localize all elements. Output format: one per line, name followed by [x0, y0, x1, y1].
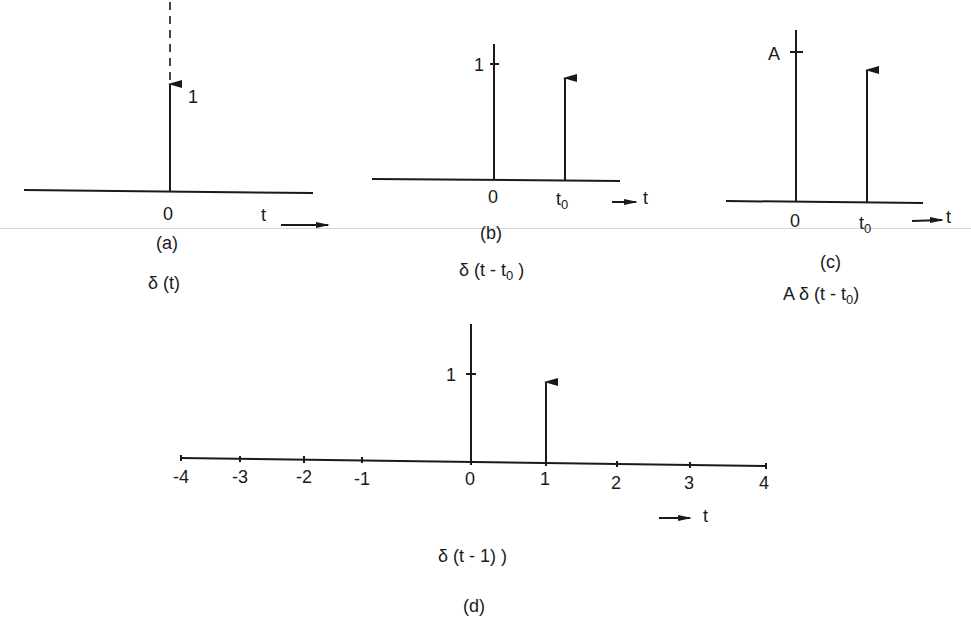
origin-label-b: 0: [488, 188, 498, 206]
tick-label-d: 1: [446, 366, 456, 384]
tick-label-3: 3: [684, 474, 694, 492]
origin-label-c: 0: [790, 212, 800, 230]
axis-label-a: t: [261, 206, 266, 224]
impulse-weight-label-a: 1: [188, 88, 198, 106]
tick-label-1: 1: [540, 470, 550, 488]
panel-c: [726, 30, 942, 221]
tick-label--1: -1: [354, 470, 370, 488]
t-direction-arrow: [912, 220, 942, 221]
caption-d: (d): [463, 597, 485, 615]
tick-label-2: 2: [611, 474, 621, 492]
caption-c: (c): [820, 253, 841, 271]
panel-b: [372, 44, 636, 202]
panel-a: [24, 2, 328, 225]
tick-label-4: 4: [759, 474, 769, 492]
caption-b: (b): [480, 224, 502, 242]
t-axis: [726, 201, 923, 203]
formula-d: δ (t - 1) ): [438, 547, 507, 565]
tick-label--3: -3: [232, 468, 248, 486]
shift-label-b: t0: [556, 190, 568, 211]
axis-label-b: t: [643, 189, 648, 207]
shift-label-c: t0: [859, 214, 871, 235]
formula-b: δ (t - t0 ): [459, 261, 524, 282]
origin-label-a: 0: [163, 205, 173, 223]
t-axis: [181, 458, 766, 466]
tick-label--4: -4: [173, 468, 189, 486]
tick-label-0: 0: [465, 470, 475, 488]
impulse-diagram: [0, 0, 971, 641]
formula-c: A δ (t - t0): [783, 285, 859, 306]
t-axis: [24, 190, 313, 193]
axis-label-d: t: [703, 507, 708, 525]
tick-label--2: -2: [296, 468, 312, 486]
tick-label-b: 1: [474, 56, 484, 74]
tick-label-c: A: [768, 45, 780, 63]
t-axis: [372, 179, 620, 181]
caption-a: (a): [156, 234, 178, 252]
formula-a: δ (t): [148, 274, 180, 292]
axis-label-c: t: [946, 208, 951, 226]
